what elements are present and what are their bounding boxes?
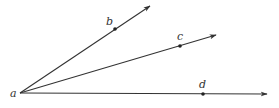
rays-diagram: bcda [0,0,279,108]
label-c: c [177,30,183,43]
ray-ab [20,6,150,93]
ray-ad [20,93,267,94]
point-c [178,44,182,48]
label-d: d [199,78,206,91]
label-b: b [106,15,113,28]
point-d [201,92,205,96]
point-b [113,27,117,31]
label-a: a [10,87,17,100]
ray-ac [20,35,216,93]
